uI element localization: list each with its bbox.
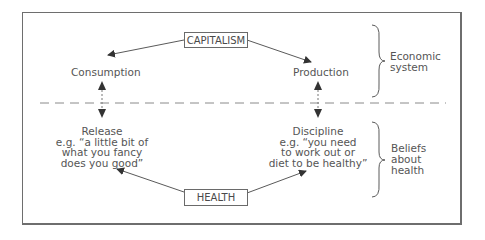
- arrowhead-up-icon: [314, 81, 322, 90]
- production-label: Production: [293, 66, 349, 78]
- health-label: HEALTH: [197, 192, 236, 203]
- arrow-capitalism-to-production: [247, 40, 311, 62]
- discipline-title: Discipline: [253, 126, 383, 137]
- discipline-line: diet to be healthy”: [253, 158, 383, 169]
- beliefs-label-line: health: [391, 165, 426, 176]
- economic-system-label: Economic system: [390, 51, 441, 73]
- arrowhead-up-icon: [98, 81, 106, 90]
- release-line: what you fancy: [42, 147, 162, 158]
- release-block: Release e.g. “a little bit of what you f…: [42, 126, 162, 168]
- arrow-capitalism-to-consumption: [108, 40, 184, 55]
- arrowhead-down-icon: [314, 109, 322, 118]
- release-title: Release: [42, 126, 162, 137]
- release-line: does you good”: [42, 158, 162, 169]
- discipline-block: Discipline e.g. “you need to work out or…: [253, 126, 383, 168]
- discipline-line: to work out or: [253, 147, 383, 158]
- economic-label-line: system: [390, 62, 441, 73]
- arrowhead-down-icon: [98, 109, 106, 118]
- arrow-health-to-discipline: [247, 171, 306, 193]
- arrow-health-to-release: [117, 169, 184, 192]
- capitalism-label: CAPITALISM: [187, 35, 245, 46]
- brace-economic-icon: [372, 25, 385, 97]
- consumption-label: Consumption: [71, 66, 141, 78]
- health-node: HEALTH: [184, 189, 248, 206]
- beliefs-about-health-label: Beliefs about health: [391, 143, 426, 176]
- capitalism-node: CAPITALISM: [184, 32, 248, 48]
